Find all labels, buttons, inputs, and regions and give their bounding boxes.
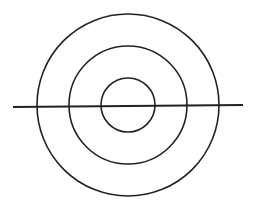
diagram-canvas xyxy=(0,0,255,208)
horizontal-line xyxy=(13,105,243,107)
concentric-circles-diagram xyxy=(0,0,255,208)
